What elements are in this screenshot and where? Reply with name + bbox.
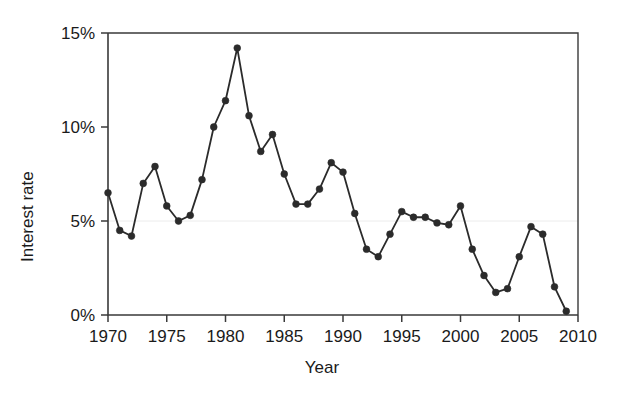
data-point <box>340 169 347 176</box>
y-axis-title: Interest rate <box>18 171 38 262</box>
data-point <box>257 148 264 155</box>
x-tick-label: 1975 <box>148 327 186 346</box>
x-tick-label: 2005 <box>500 327 538 346</box>
series-line-interest-rate <box>108 48 566 311</box>
data-point <box>128 233 135 240</box>
data-point <box>293 201 300 208</box>
x-tick-label: 1970 <box>89 327 127 346</box>
data-point <box>234 45 241 52</box>
data-point <box>398 208 405 215</box>
data-point <box>528 223 535 230</box>
x-tick-label: 2010 <box>559 327 597 346</box>
data-point <box>187 212 194 219</box>
data-point <box>163 203 170 210</box>
data-point <box>316 186 323 193</box>
data-point <box>387 231 394 238</box>
data-point <box>492 289 499 296</box>
data-point <box>375 253 382 260</box>
data-point <box>457 203 464 210</box>
data-point <box>304 201 311 208</box>
x-tick-label: 1980 <box>207 327 245 346</box>
data-point <box>481 272 488 279</box>
data-point <box>445 221 452 228</box>
y-tick-label: 0% <box>70 306 95 325</box>
data-point <box>539 231 546 238</box>
data-point <box>504 285 511 292</box>
x-axis-title: Year <box>8 358 628 378</box>
y-axis-ticks: 0%5%10%15% <box>61 24 108 325</box>
data-point <box>222 97 229 104</box>
x-tick-label: 1990 <box>324 327 362 346</box>
data-point <box>281 171 288 178</box>
data-point <box>105 189 112 196</box>
data-point <box>175 218 182 225</box>
data-point <box>246 112 253 119</box>
data-series-interest-rate <box>105 45 570 315</box>
y-tick-label: 10% <box>61 118 95 137</box>
y-tick-label: 5% <box>70 212 95 231</box>
x-tick-label: 1995 <box>383 327 421 346</box>
data-point <box>516 253 523 260</box>
x-tick-label: 1985 <box>265 327 303 346</box>
chart-canvas: 0%5%10%15% 19701975198019851990199520002… <box>0 0 628 401</box>
data-point <box>152 163 159 170</box>
data-point <box>410 214 417 221</box>
data-point <box>351 210 358 217</box>
x-tick-label: 2000 <box>442 327 480 346</box>
x-axis-ticks: 197019751980198519901995200020052010 <box>89 315 597 346</box>
data-point <box>469 246 476 253</box>
data-point <box>422 214 429 221</box>
data-point <box>328 159 335 166</box>
data-point <box>199 176 206 183</box>
data-point <box>563 308 570 315</box>
data-point <box>434 219 441 226</box>
data-point <box>140 180 147 187</box>
data-point <box>269 131 276 138</box>
data-point <box>116 227 123 234</box>
data-point <box>551 283 558 290</box>
data-point <box>363 246 370 253</box>
series-markers-interest-rate <box>105 45 570 315</box>
data-point <box>210 124 217 131</box>
interest-rate-line-chart: 0%5%10%15% 19701975198019851990199520002… <box>0 0 628 401</box>
y-tick-label: 15% <box>61 24 95 43</box>
